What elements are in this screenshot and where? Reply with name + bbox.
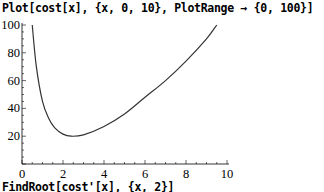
ticks: 024681020406080100 bbox=[1, 18, 233, 181]
y-tick-label: 40 bbox=[8, 101, 21, 115]
x-tick-label: 4 bbox=[101, 167, 108, 181]
y-tick-label: 20 bbox=[8, 129, 21, 143]
y-tick-label: 80 bbox=[8, 46, 21, 60]
plot: 024681020406080100 bbox=[0, 0, 324, 192]
cost-curve bbox=[32, 25, 217, 136]
axes bbox=[22, 23, 229, 164]
y-tick-label: 100 bbox=[1, 18, 20, 32]
x-tick-label: 10 bbox=[221, 167, 234, 181]
x-tick-label: 2 bbox=[60, 167, 66, 181]
x-tick-label: 8 bbox=[183, 167, 189, 181]
x-tick-label: 6 bbox=[142, 167, 148, 181]
x-tick-label: 0 bbox=[19, 167, 25, 181]
input-findroot-command[interactable]: FindRoot[cost'[x], {x, 2}] bbox=[2, 180, 174, 192]
y-tick-label: 60 bbox=[8, 74, 21, 88]
